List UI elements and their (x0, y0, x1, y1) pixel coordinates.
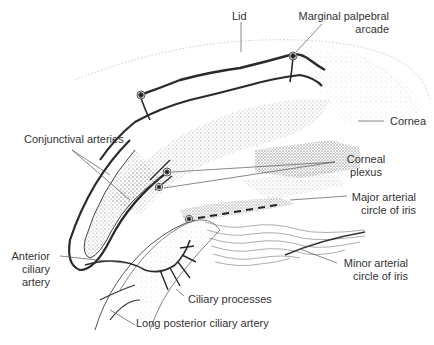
label-marginal-palpebral-arcade: Marginal palpebral arcade (295, 10, 389, 36)
label-ciliary-processes: Ciliary processes (188, 293, 272, 306)
label-major-arterial-circle: Major arterial circle of iris (340, 191, 416, 217)
label-cornea: Cornea (390, 115, 426, 128)
label-marginal-line1: Marginal palpebral (295, 10, 389, 23)
label-lid: Lid (232, 10, 247, 23)
label-anterior-ciliary-artery: Anterior ciliary artery (6, 250, 50, 289)
label-conjunctival-arteries: Conjunctival arteries (24, 133, 124, 146)
label-minor-arterial-circle: Minor arterial circle of iris (330, 257, 408, 283)
label-major-line2: circle of iris (340, 204, 416, 217)
label-long-posterior-ciliary-artery: Long posterior ciliary artery (136, 317, 269, 330)
label-minor-line2: circle of iris (330, 270, 408, 283)
label-corneal-line1: Corneal (338, 153, 394, 166)
label-anterior-line1: Anterior (6, 250, 50, 263)
label-corneal-line2: plexus (338, 166, 394, 179)
label-major-line1: Major arterial (340, 191, 416, 204)
label-marginal-line2: arcade (295, 23, 389, 36)
label-anterior-line3: artery (6, 276, 50, 289)
label-minor-line1: Minor arterial (330, 257, 408, 270)
label-corneal-plexus: Corneal plexus (338, 153, 394, 179)
eye-blood-supply-diagram: Lid Marginal palpebral arcade Cornea Con… (0, 0, 434, 345)
label-anterior-line2: ciliary (6, 263, 50, 276)
